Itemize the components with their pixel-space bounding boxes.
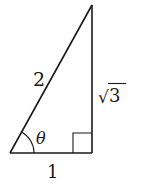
hypotenuse-side	[10, 5, 92, 153]
triangle	[10, 5, 92, 153]
sqrt-symbol: √	[98, 87, 109, 107]
adjacent-label: 1	[47, 161, 58, 182]
triangle-diagram: 2 √ 3 1 θ	[0, 0, 141, 184]
angle-label: θ	[36, 129, 46, 148]
angle-arc	[22, 132, 34, 153]
right-angle-marker	[73, 133, 92, 153]
hypotenuse-label: 2	[33, 68, 45, 90]
sqrt-radicand: 3	[109, 85, 120, 106]
opposite-label: √ 3	[98, 84, 126, 108]
